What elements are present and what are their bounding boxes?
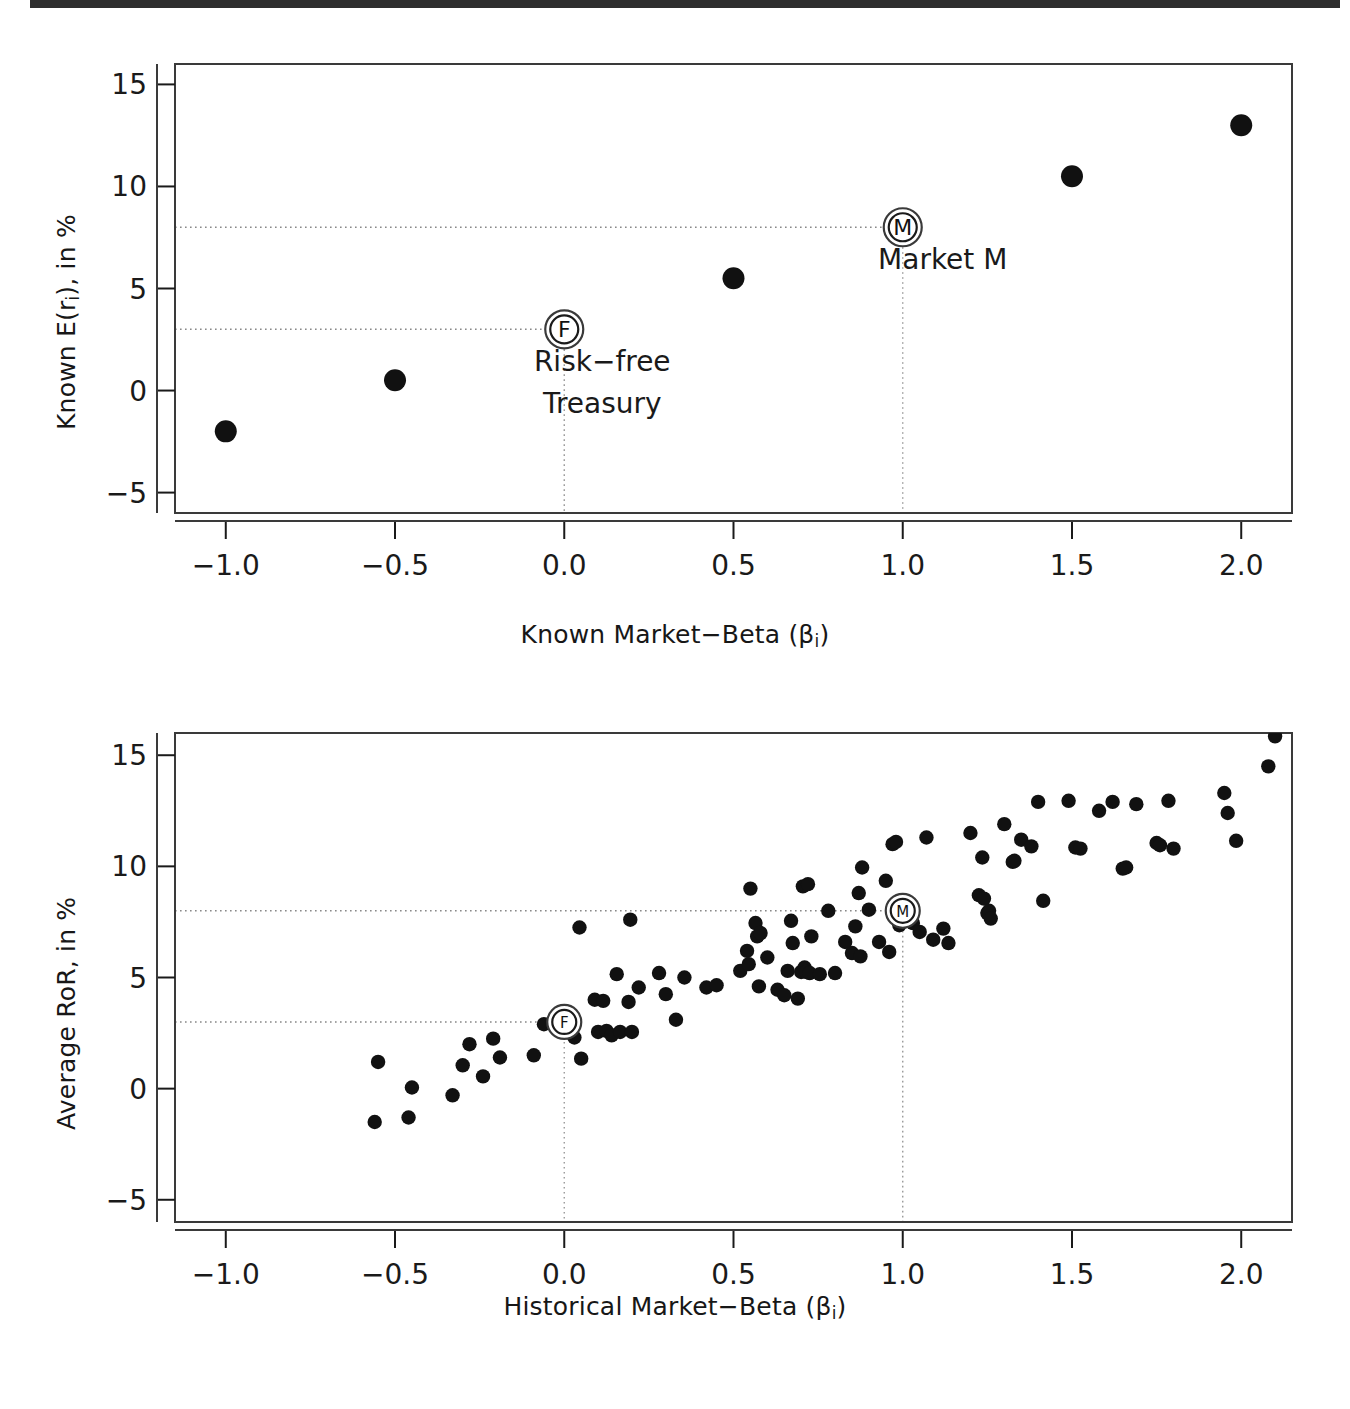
data-point: [623, 913, 637, 927]
data-point: [855, 860, 869, 874]
data-point: [368, 1115, 382, 1129]
y-tick-label: 10: [111, 170, 147, 203]
data-point: [493, 1050, 507, 1064]
data-point: [669, 1013, 683, 1027]
x-tick-label: 2.0: [1219, 1258, 1264, 1291]
data-point: [984, 911, 998, 925]
data-point: [848, 919, 862, 933]
data-point: [610, 967, 624, 981]
annotation-marker-m: M: [884, 208, 922, 246]
data-point: [801, 877, 815, 891]
figure-page: −1.0−0.50.00.51.01.52.0−5051015FRisk−fre…: [0, 0, 1350, 1409]
y-tick-label: 5: [129, 273, 147, 306]
data-point: [821, 904, 835, 918]
data-point: [753, 926, 767, 940]
data-point: [1105, 795, 1119, 809]
m-marker-letter: M: [893, 215, 912, 240]
data-point: [652, 966, 666, 980]
x-tick-label: 1.0: [880, 549, 925, 582]
data-point: [941, 936, 955, 950]
data-point: [572, 920, 586, 934]
data-point: [813, 967, 827, 981]
bottom-xaxis-title: Historical Market−Beta (βi): [0, 1292, 1350, 1323]
data-point: [752, 979, 766, 993]
data-point: [1217, 786, 1231, 800]
x-tick-label: −1.0: [192, 549, 260, 582]
annotation-marker-m: M: [886, 894, 920, 928]
data-point: [1092, 804, 1106, 818]
annotation-marker-f: F: [547, 1005, 581, 1039]
top-plot-canvas: −1.0−0.50.00.51.01.52.0−5051015FRisk−fre…: [0, 0, 1350, 660]
data-point: [1166, 841, 1180, 855]
data-point: [926, 933, 940, 947]
y-tick-label: 5: [129, 962, 147, 995]
data-point: [1230, 114, 1252, 136]
data-point: [677, 970, 691, 984]
x-tick-label: 0.5: [711, 549, 756, 582]
data-point: [1061, 165, 1083, 187]
bottom-yaxis-title: Average RoR, in %: [52, 897, 83, 1130]
data-point: [401, 1110, 415, 1124]
data-point: [1161, 794, 1175, 808]
data-point: [1229, 834, 1243, 848]
data-point: [828, 966, 842, 980]
y-tick-label: −5: [106, 477, 147, 510]
top-panel: −1.0−0.50.00.51.01.52.0−5051015FRisk−fre…: [0, 0, 1350, 700]
x-tick-label: 0.0: [542, 1258, 587, 1291]
data-point: [462, 1037, 476, 1051]
plot-frame: [175, 733, 1292, 1222]
annotation-label-f-line1: Risk−free: [534, 345, 671, 378]
y-tick-label: 15: [111, 739, 147, 772]
data-point: [882, 945, 896, 959]
top-yaxis-title-base: Known E(r: [52, 301, 81, 430]
data-point: [476, 1069, 490, 1083]
x-tick-label: 1.5: [1050, 549, 1095, 582]
x-tick-label: 1.5: [1050, 1258, 1095, 1291]
y-tick-label: 10: [111, 850, 147, 883]
data-point: [1031, 795, 1045, 809]
data-point: [912, 925, 926, 939]
bottom-xaxis-title-tail: ): [837, 1292, 847, 1321]
data-point: [215, 420, 237, 442]
x-tick-label: −0.5: [361, 1258, 429, 1291]
data-point: [574, 1051, 588, 1065]
data-point: [919, 830, 933, 844]
f-marker-letter: F: [560, 1014, 569, 1032]
data-point: [596, 994, 610, 1008]
top-yaxis-title-sub: i: [63, 296, 83, 301]
data-point: [740, 944, 754, 958]
data-point: [1061, 794, 1075, 808]
y-tick-label: 15: [111, 68, 147, 101]
data-point: [723, 267, 745, 289]
data-point: [780, 964, 794, 978]
top-yaxis-title: Known E(ri), in %: [52, 214, 83, 430]
data-point: [625, 1025, 639, 1039]
data-point: [1024, 839, 1038, 853]
x-tick-label: −0.5: [361, 549, 429, 582]
bottom-xaxis-title-base: Historical Market−Beta (β: [503, 1292, 831, 1321]
top-xaxis-title-tail: ): [819, 620, 829, 649]
data-point: [445, 1088, 459, 1102]
x-tick-label: −1.0: [192, 1258, 260, 1291]
data-point: [784, 914, 798, 928]
data-point-group: [368, 729, 1283, 1129]
data-point: [791, 991, 805, 1005]
data-point: [997, 817, 1011, 831]
data-point: [1119, 860, 1133, 874]
data-point: [384, 369, 406, 391]
data-point: [1268, 729, 1282, 743]
data-point: [1220, 806, 1234, 820]
top-xaxis-title: Known Market−Beta (βi): [0, 620, 1350, 651]
bottom-yaxis-title-base: Average RoR, in %: [52, 897, 81, 1130]
top-xaxis-title-base: Known Market−Beta (β: [521, 620, 815, 649]
bottom-panel: −1.0−0.50.00.51.01.52.0−5051015FM Histor…: [0, 700, 1350, 1409]
m-marker-letter: M: [896, 903, 909, 921]
data-point: [742, 957, 756, 971]
data-point: [852, 886, 866, 900]
x-tick-label: 0.5: [711, 1258, 756, 1291]
data-point: [786, 936, 800, 950]
data-point: [1153, 838, 1167, 852]
data-point: [486, 1031, 500, 1045]
data-point: [371, 1055, 385, 1069]
data-point: [975, 850, 989, 864]
